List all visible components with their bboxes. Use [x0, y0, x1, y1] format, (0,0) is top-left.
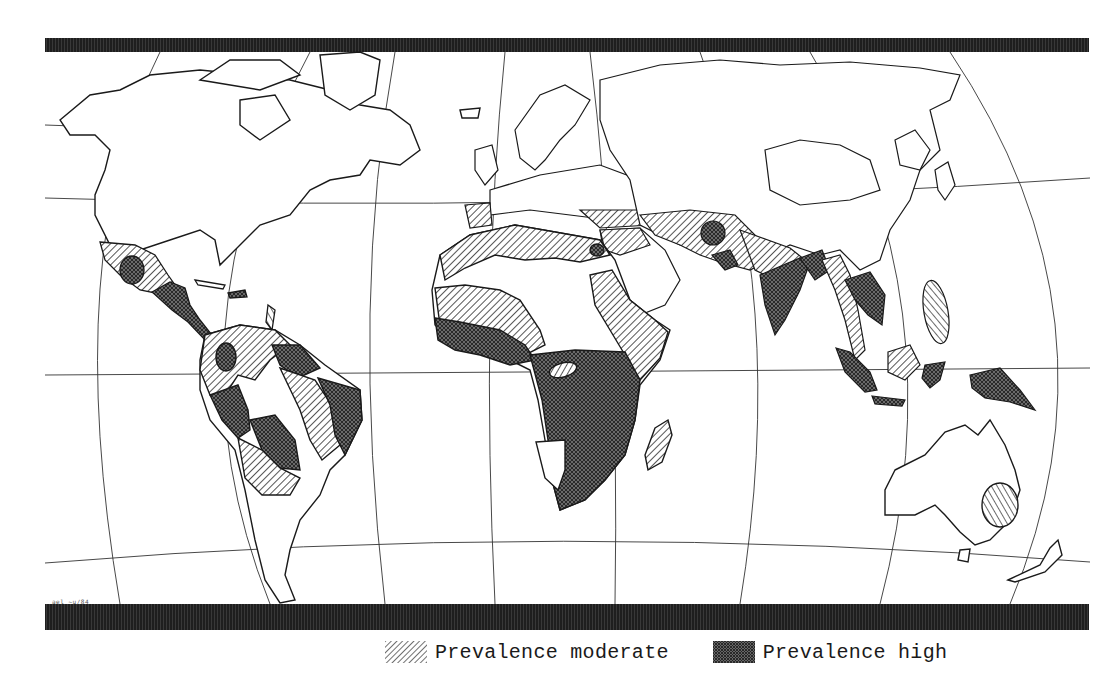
mexico-central-america [100, 242, 275, 340]
moderate-hatch-swatch-icon [385, 641, 427, 663]
map-legend: Prevalence moderate Prevalence high [385, 637, 991, 667]
legend-label-moderate: Prevalence moderate [435, 641, 669, 664]
high-crosshatch-swatch-icon [713, 641, 755, 663]
asia [600, 60, 960, 360]
south-america [200, 325, 362, 603]
legend-label-high: Prevalence high [763, 641, 948, 664]
top-border-bar [45, 38, 1089, 52]
bottom-border-bar [45, 604, 1089, 630]
maritime-southeast-asia [836, 345, 1035, 410]
north-america [60, 52, 480, 265]
legend-item-moderate: Prevalence moderate [385, 641, 669, 664]
legend-item-high: Prevalence high [713, 641, 948, 664]
world-map [0, 0, 1118, 640]
map-reference-code: ael ~u/84 [52, 598, 89, 605]
